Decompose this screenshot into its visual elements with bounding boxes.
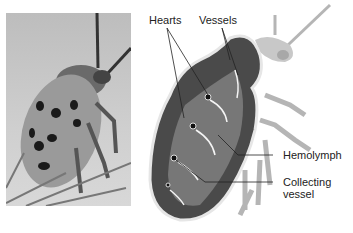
- label-collecting-vessel-1: Collecting: [283, 176, 331, 188]
- circulatory-diagram: Hearts Vessels Hemolymph Collecting vess…: [140, 0, 353, 233]
- label-collecting-vessel-2: vessel: [283, 188, 314, 200]
- label-vessels: Vessels: [199, 14, 237, 26]
- label-hemolymph: Hemolymph: [283, 149, 342, 161]
- beetle-cutaway: [140, 0, 353, 233]
- beetle-illustration: [6, 13, 131, 206]
- beetle-photo: [6, 13, 131, 206]
- label-hearts: Hearts: [149, 14, 181, 26]
